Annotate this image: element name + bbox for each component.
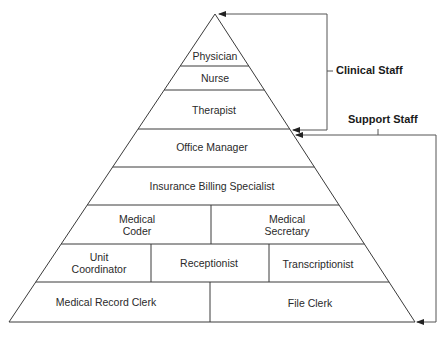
tier-nurse: Nurse bbox=[201, 72, 229, 84]
label-line: Secretary bbox=[265, 225, 310, 237]
tier-therapist: Therapist bbox=[192, 104, 236, 116]
cell-transcriptionist: Transcriptionist bbox=[283, 258, 354, 270]
cell-medical-record-clerk: Medical Record Clerk bbox=[56, 296, 156, 308]
support-bracket bbox=[296, 129, 436, 322]
label-line: Coordinator bbox=[72, 263, 127, 275]
support-staff-label: Support Staff bbox=[348, 113, 418, 125]
label-line: Coder bbox=[119, 225, 155, 237]
label-line: Medical bbox=[265, 213, 310, 225]
cell-file-clerk: File Clerk bbox=[288, 297, 332, 309]
cell-medical-coder: Medical Coder bbox=[119, 213, 155, 237]
cell-receptionist: Receptionist bbox=[180, 257, 238, 269]
tier-insurance-billing-specialist: Insurance Billing Specialist bbox=[150, 180, 275, 192]
label-line: Medical bbox=[119, 213, 155, 225]
tier-office-manager: Office Manager bbox=[176, 141, 248, 153]
cell-medical-secretary: Medical Secretary bbox=[265, 213, 310, 237]
tier-physician: Physician bbox=[193, 50, 238, 62]
clinical-staff-label: Clinical Staff bbox=[336, 64, 403, 76]
label-line: Unit bbox=[72, 251, 127, 263]
cell-unit-coordinator: Unit Coordinator bbox=[72, 251, 127, 275]
